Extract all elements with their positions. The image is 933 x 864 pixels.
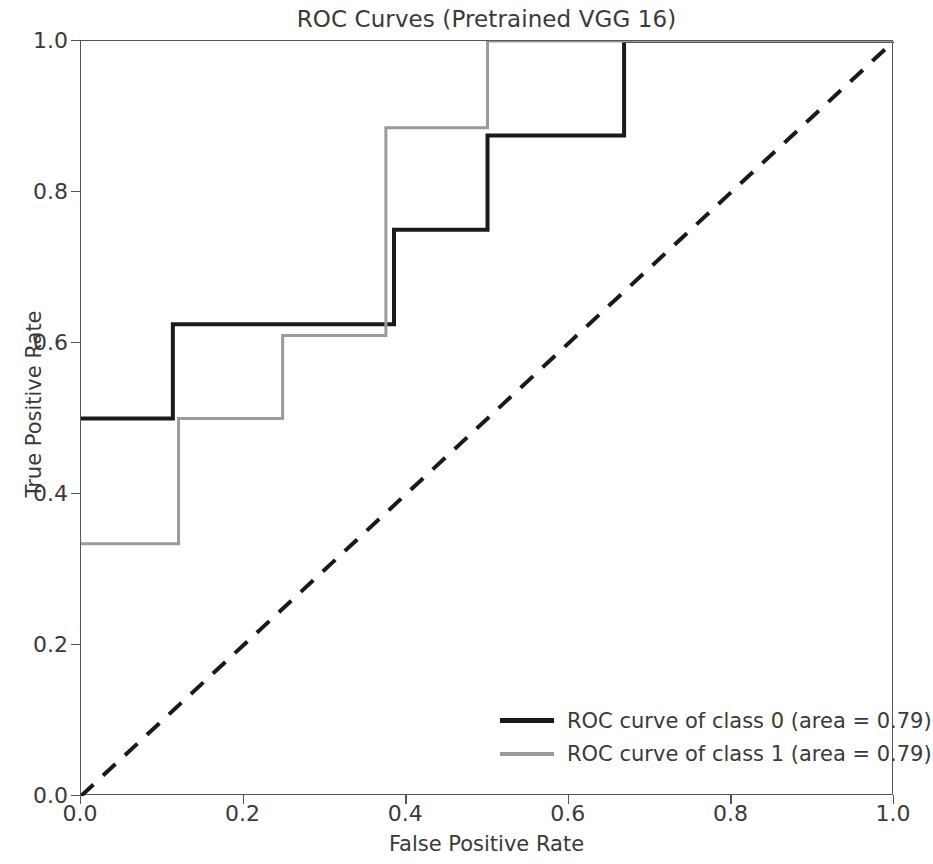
y-axis-label: True Positive Rate [22, 204, 46, 604]
x-tick-label: 0.6 [528, 801, 608, 826]
roc-curve-roc-curve-of-class-1-area-0-79- [81, 41, 894, 544]
legend-line-swatch-class1 [500, 752, 554, 756]
x-tick-mark [405, 795, 406, 804]
legend-label-class0: ROC curve of class 0 (area = 0.79) [567, 709, 932, 733]
legend-item: ROC curve of class 1 (area = 0.79) [500, 737, 888, 770]
x-tick-label: 0.8 [690, 801, 770, 826]
y-tick-label: 1.0 [12, 28, 68, 53]
chart-legend: ROC curve of class 0 (area = 0.79) ROC c… [500, 700, 888, 774]
y-tick-mark [71, 40, 80, 41]
roc-curves-svg [81, 41, 894, 796]
legend-line-swatch-class0 [500, 718, 554, 723]
y-tick-label: 0.8 [12, 179, 68, 204]
x-tick-mark [893, 795, 894, 804]
y-tick-label: 0.2 [12, 632, 68, 657]
y-tick-mark [71, 191, 80, 192]
x-tick-mark [243, 795, 244, 804]
legend-label-class1: ROC curve of class 1 (area = 0.79) [567, 742, 932, 766]
x-tick-label: 0.2 [203, 801, 283, 826]
x-tick-label: 0.4 [365, 801, 445, 826]
y-tick-mark [71, 644, 80, 645]
x-tick-mark [568, 795, 569, 804]
x-tick-mark [730, 795, 731, 804]
x-tick-mark [80, 795, 81, 804]
x-tick-label: 0.0 [40, 801, 120, 826]
legend-item: ROC curve of class 0 (area = 0.79) [500, 704, 888, 737]
plot-area [80, 40, 893, 795]
x-axis-tick-labels: 0.00.20.40.60.81.0 [80, 801, 893, 831]
y-tick-mark [71, 493, 80, 494]
y-tick-mark [71, 342, 80, 343]
chart-title: ROC Curves (Pretrained VGG 16) [80, 6, 893, 32]
x-axis-label: False Positive Rate [80, 832, 893, 856]
y-tick-mark [71, 795, 80, 796]
x-tick-label: 1.0 [853, 801, 933, 826]
